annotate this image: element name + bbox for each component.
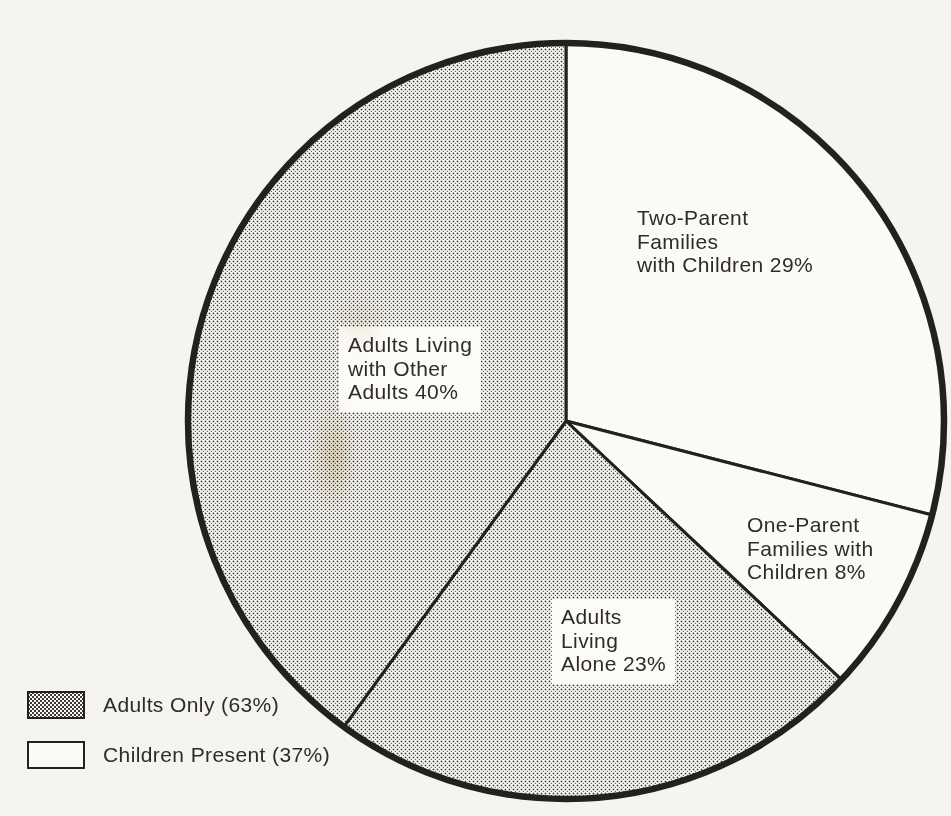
legend-label-adults-only: Adults Only (63%) — [103, 693, 279, 717]
legend-swatch-white — [27, 741, 85, 769]
slice-label-one-parent-families: One-Parent Families with Children 8% — [747, 513, 874, 584]
scanned-chart-page: Two-Parent Families with Children 29% On… — [0, 0, 951, 816]
pie-slices — [188, 43, 944, 799]
legend: Adults Only (63%) Children Present (37%) — [27, 691, 330, 791]
legend-item-children-present: Children Present (37%) — [27, 741, 330, 769]
legend-item-adults-only: Adults Only (63%) — [27, 691, 330, 719]
legend-label-children-present: Children Present (37%) — [103, 743, 330, 767]
slice-label-adults-with-other-adults: Adults Living with Other Adults 40% — [339, 327, 481, 412]
slice-label-two-parent-families: Two-Parent Families with Children 29% — [637, 206, 813, 277]
slice-label-adults-living-alone: Adults Living Alone 23% — [552, 599, 675, 684]
legend-swatch-stipple — [27, 691, 85, 719]
